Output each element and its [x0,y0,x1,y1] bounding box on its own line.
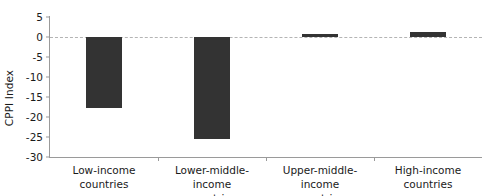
category-label-line: High-income [374,163,482,177]
x-axis-category-label: Low-incomecountries [50,163,158,191]
bar [302,34,338,37]
category-label-line: countries [266,191,374,196]
cppi-index-bar-chart: CPPI Index 50-5-10-15-20-25-30 Low-incom… [0,0,500,196]
x-axis-category-labels: Low-incomecountriesLower-middle-incomeco… [50,163,482,196]
category-label-line: Upper-middle-income [266,163,374,191]
x-axis-category-label: Lower-middle-incomecountries [158,163,266,196]
y-axis-title: CPPI Index [0,0,18,196]
x-axis-category-label: High-incomecountries [374,163,482,191]
category-label-line: Lower-middle-income [158,163,266,191]
x-axis-separator-tick [374,157,375,161]
bar [86,37,122,108]
category-label-line: countries [50,177,158,191]
x-axis-separator-tick [158,157,159,161]
plot-area: 50-5-10-15-20-25-30 [50,17,482,157]
x-axis-category-label: Upper-middle-incomecountries [266,163,374,196]
bar [410,32,446,37]
category-label-line: countries [158,191,266,196]
category-label-line: Low-income [50,163,158,177]
x-axis-separator-tick [266,157,267,161]
bar [194,37,230,139]
category-label-line: countries [374,177,482,191]
bar-series [50,17,482,157]
